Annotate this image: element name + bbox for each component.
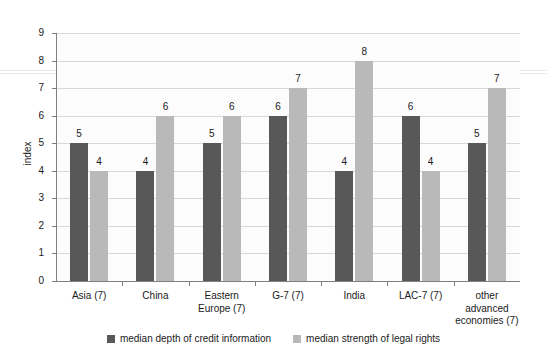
- bar: [203, 143, 221, 281]
- gridline: [56, 61, 520, 62]
- bar-value-label: 8: [349, 47, 379, 57]
- y-axis-tick-label: 3: [0, 193, 44, 203]
- gridline: [56, 88, 520, 89]
- gridline: [56, 198, 520, 199]
- legend-label: median strength of legal rights: [306, 334, 440, 344]
- y-axis-tick-label: 9: [0, 28, 44, 38]
- bar-value-label: 6: [150, 102, 180, 112]
- x-axis-category-label: otheradvancedeconomies (7): [444, 290, 530, 328]
- plot-background: [56, 33, 520, 281]
- bar: [335, 171, 353, 281]
- x-axis-category-label-line: economies (7): [444, 315, 530, 328]
- x-axis-tick: [321, 281, 322, 286]
- bar: [355, 61, 373, 281]
- bar-value-label: 4: [416, 157, 446, 167]
- x-axis-category-label-line: other: [444, 290, 530, 303]
- bar-value-label: 5: [64, 129, 94, 139]
- bar-chart: index 0123456789 54465667486457 Asia (7)…: [0, 0, 547, 358]
- y-axis-tick-label: 8: [0, 56, 44, 66]
- y-axis-tick-label: 7: [0, 83, 44, 93]
- gridline: [56, 33, 520, 34]
- x-axis-tick: [122, 281, 123, 286]
- bar: [488, 88, 506, 281]
- legend-item[interactable]: median strength of legal rights: [293, 334, 440, 344]
- bar: [468, 143, 486, 281]
- x-axis-line: [56, 281, 520, 282]
- y-axis-tick-label: 0: [0, 276, 44, 286]
- bar-value-label: 6: [396, 102, 426, 112]
- bar: [223, 116, 241, 281]
- gridline: [56, 226, 520, 227]
- y-axis-tick-label: 6: [0, 111, 44, 121]
- y-axis-line: [56, 33, 57, 282]
- x-axis-tick: [189, 281, 190, 286]
- y-axis-tick-label: 1: [0, 248, 44, 258]
- y-axis-tick-label: 5: [0, 138, 44, 148]
- x-axis-category-label-line: advanced: [444, 303, 530, 316]
- bar: [156, 116, 174, 281]
- bar: [90, 171, 108, 281]
- bar-value-label: 7: [482, 74, 512, 84]
- gridline: [56, 143, 520, 144]
- x-axis-tick: [255, 281, 256, 286]
- x-axis-tick: [454, 281, 455, 286]
- legend-label: median depth of credit information: [120, 334, 271, 344]
- legend-swatch-icon: [293, 335, 301, 343]
- legend-swatch-icon: [107, 335, 115, 343]
- bar-value-label: 7: [283, 74, 313, 84]
- bar: [136, 171, 154, 281]
- x-axis-tick: [387, 281, 388, 286]
- bar: [269, 116, 287, 281]
- x-axis-category-label-line: Europe (7): [179, 303, 265, 316]
- legend-item[interactable]: median depth of credit information: [107, 334, 271, 344]
- y-axis-tick-label: 4: [0, 166, 44, 176]
- bar: [422, 171, 440, 281]
- gridline: [56, 116, 520, 117]
- chart-legend: median depth of credit informationmedian…: [0, 334, 547, 344]
- plot-area: 54465667486457: [56, 33, 520, 281]
- y-axis-tick-label: 2: [0, 221, 44, 231]
- bar: [289, 88, 307, 281]
- bar: [402, 116, 420, 281]
- gridline: [56, 253, 520, 254]
- bar-value-label: 6: [217, 102, 247, 112]
- gridline: [56, 171, 520, 172]
- bar-value-label: 4: [84, 157, 114, 167]
